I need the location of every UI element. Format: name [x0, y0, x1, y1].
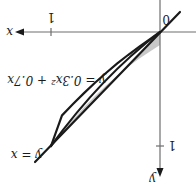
line-label: y = x [11, 148, 43, 162]
origin-label: 0 [162, 12, 170, 26]
y-tick-label: 1 [168, 138, 176, 152]
x-axis-label: x [6, 25, 13, 39]
y-axis-label: y [149, 172, 157, 186]
diagram-stage: 0 1 1 x y y = 0.3x² + 0.7x y = x [0, 0, 196, 187]
y-axis-arrow-icon [157, 168, 164, 177]
x-axis-arrow-icon [15, 29, 24, 36]
x-tick-label: 1 [47, 10, 55, 24]
parabola-label: y = 0.3x² + 0.7x [7, 73, 107, 87]
area-between-curves-diagram: 0 1 1 x y y = 0.3x² + 0.7x y = x [0, 0, 196, 187]
